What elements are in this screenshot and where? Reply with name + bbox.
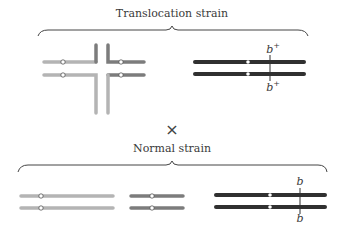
normal-dark-chromosome-pair [216,195,325,207]
normal-medium-chromosome-pair [131,196,183,208]
gene-letter: b [266,43,273,56]
translocation-chromosome-bottom-left [44,75,96,113]
bottom-brace [18,161,327,172]
gene-label-b-bottom: b [296,212,303,225]
allele-superscript: + [273,79,280,88]
centromere [246,60,250,64]
centromere [61,73,65,77]
translocation-chromosome-top-left [44,45,96,62]
centromere [119,60,123,64]
centromere [39,206,43,210]
centromere [61,60,65,64]
diagram-canvas [0,0,344,233]
normal-strain-title: Normal strain [133,142,211,155]
centromere [268,193,272,197]
centromere [246,72,250,76]
gene-label-b-plus-bottom: b+ [266,79,280,94]
top-brace [38,26,308,36]
centromere [150,206,154,210]
gene-label-b-plus-top: b+ [266,41,280,56]
centromere [150,194,154,198]
gene-letter: b [266,81,273,94]
gene-label-b-top: b [296,175,303,188]
translocation-chromosome-bottom-right [108,75,144,113]
cross-symbol: × [165,120,178,139]
translocation-strain-title: Translocation strain [116,7,228,20]
top-dark-chromosome-pair [195,62,304,74]
translocation-diagram: Translocation strain b+ b+ × Normal stra… [0,0,344,233]
centromere [119,73,123,77]
translocation-chromosome-top-right [108,45,144,62]
normal-light-chromosome-pair [21,196,113,208]
centromere [268,205,272,209]
allele-superscript: + [273,41,280,50]
centromere [39,194,43,198]
